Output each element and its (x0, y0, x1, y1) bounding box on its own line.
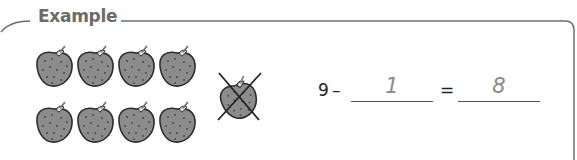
strawberry-icon (76, 44, 116, 88)
minus-sign: – (332, 80, 341, 100)
difference-blank[interactable] (458, 101, 540, 102)
strawberry-icon (158, 44, 198, 88)
subtraction-equation: 9 – 1 = 8 (318, 74, 548, 104)
minuend: 9 (318, 80, 329, 100)
strawberry-icon (117, 44, 157, 88)
section-title: Example (34, 6, 121, 26)
strawberry-icon (35, 44, 75, 88)
crossed-out-strawberry-icon (215, 70, 263, 122)
difference-answer: 8 (458, 74, 540, 98)
subtrahend-answer: 1 (351, 74, 433, 98)
strawberry-icon (117, 100, 157, 144)
equals-sign: = (440, 80, 454, 100)
strawberry-icon (158, 100, 198, 144)
strawberry-icon (76, 100, 116, 144)
strawberry-icon (35, 100, 75, 144)
subtrahend-blank[interactable] (351, 101, 433, 102)
